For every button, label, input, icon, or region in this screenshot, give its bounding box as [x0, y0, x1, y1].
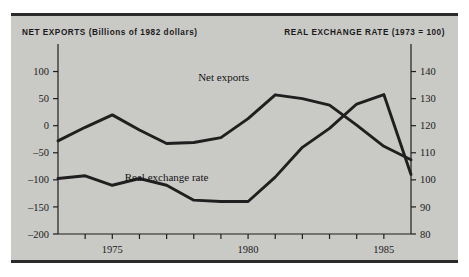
left-axis-tick-label: –150: [27, 202, 49, 213]
left-axis-tick-label: 100: [33, 66, 49, 77]
right-axis-tick-label: 130: [420, 93, 436, 104]
right-axis-tick-label: 120: [420, 120, 436, 131]
plot-area: 100500–50–100–150–2001401301201101009080…: [11, 16, 458, 266]
left-axis-tick-label: 0: [44, 120, 49, 131]
line-chart-svg: 100500–50–100–150–2001401301201101009080…: [11, 16, 458, 266]
right-axis-tick-label: 140: [420, 66, 436, 77]
right-axis-tick-label: 110: [420, 147, 435, 158]
left-axis-tick-label: –50: [32, 147, 49, 158]
x-axis-tick-label: 1975: [102, 244, 123, 255]
series-line-real-exchange-rate: [58, 95, 411, 202]
chart-figure: NET EXPORTS (Billions of 1982 dollars) R…: [0, 0, 469, 277]
right-axis-tick-label: 90: [420, 202, 431, 213]
series-label-net-exports: Net exports: [198, 71, 249, 83]
left-axis-tick-label: –200: [27, 229, 49, 240]
right-axis-tick-label: 80: [420, 229, 431, 240]
right-axis-tick-label: 100: [420, 174, 436, 185]
left-axis-tick-label: –100: [27, 174, 49, 185]
x-axis-tick-label: 1980: [238, 244, 259, 255]
series-label-real-exchange-rate: Real exchange rate: [125, 171, 209, 183]
left-axis-tick-label: 50: [39, 93, 50, 104]
chart-panel: NET EXPORTS (Billions of 1982 dollars) R…: [11, 13, 458, 263]
x-axis-tick-label: 1985: [373, 244, 394, 255]
